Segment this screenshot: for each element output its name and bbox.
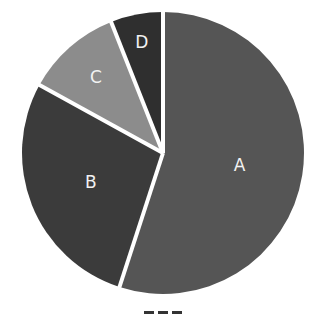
slice-label-b: B [85,172,97,192]
pie-chart: ABCD [0,0,314,314]
chart-title [0,303,314,314]
slice-label-c: C [90,67,102,87]
slice-label-a: A [234,155,246,175]
slice-label-d: D [135,32,148,52]
pie-slices [22,10,304,294]
